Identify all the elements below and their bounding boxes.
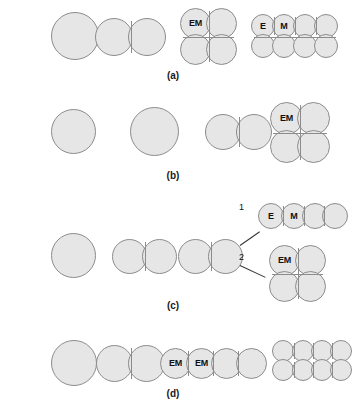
cell-divider — [213, 351, 214, 376]
cell — [236, 114, 272, 150]
cell — [297, 130, 330, 163]
cell-divider — [238, 351, 239, 376]
cell-divider — [294, 362, 295, 378]
cell-divider — [188, 351, 189, 376]
cell-divider — [272, 274, 323, 275]
cell-divider — [211, 242, 212, 271]
cell-divider — [131, 348, 132, 379]
cell-divider — [304, 206, 305, 226]
cell — [295, 271, 326, 302]
cell — [208, 239, 243, 274]
cell-divider — [254, 37, 336, 38]
cell-divider — [131, 21, 132, 53]
figure-row-d: EM EM (d) — [0, 320, 353, 415]
branch-connector-2 — [240, 265, 266, 278]
figure-row-b: EM (b) — [0, 95, 353, 195]
cell-divider — [332, 343, 333, 359]
cell-divider — [145, 242, 146, 271]
figure-row-a: EM E M (a) — [0, 0, 353, 95]
cell-divider — [274, 17, 275, 35]
cell — [130, 107, 179, 156]
cell-divider — [295, 17, 296, 35]
cell — [142, 239, 177, 274]
branch-connector-1 — [240, 231, 260, 246]
cell — [51, 109, 96, 154]
row-caption-d: (d) — [143, 388, 203, 399]
cell-division-figure: EM E M (a) — [0, 0, 353, 415]
cell — [206, 34, 237, 65]
cell — [51, 233, 96, 278]
cell-divider — [324, 206, 325, 226]
cell — [330, 359, 352, 381]
row-caption-c: (c) — [143, 300, 203, 311]
cell-divider — [313, 343, 314, 359]
cell-divider — [239, 117, 240, 147]
branch-label-1: 1 — [239, 203, 244, 212]
cell-divider — [273, 133, 327, 134]
cell-divider — [183, 37, 234, 38]
cell — [272, 359, 294, 381]
cell — [128, 18, 166, 56]
cell-label-e: E — [259, 204, 283, 228]
cell-divider — [294, 343, 295, 359]
row-caption-a: (a) — [143, 70, 203, 81]
row-caption-b: (b) — [143, 170, 203, 181]
cell-divider — [316, 17, 317, 35]
figure-row-c: 1 E M 2 EM ( — [0, 195, 353, 320]
cell — [322, 203, 348, 229]
cell — [51, 12, 99, 60]
cell-divider — [313, 362, 314, 378]
branch-label-2: 2 — [239, 253, 244, 262]
cell — [236, 348, 267, 379]
cell-divider — [332, 362, 333, 378]
cell — [51, 340, 97, 386]
cell-divider — [283, 206, 284, 226]
